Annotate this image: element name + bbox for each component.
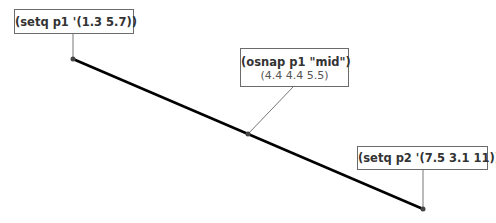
- point-p1: [71, 57, 76, 62]
- leader-mid: [248, 87, 293, 134]
- point-p2: [421, 207, 426, 212]
- label-p2: (setq p2 '(7.5 3.1 11)): [357, 146, 488, 170]
- label-mid: (osnap p1 "mid") (4.4 4.4 5.5): [240, 48, 349, 87]
- label-p2-text: (setq p2 '(7.5 3.1 11)): [358, 151, 487, 165]
- point-mid: [246, 132, 251, 137]
- label-p1: (setq p1 '(1.3 5.7)): [14, 9, 134, 34]
- label-p1-text: (setq p1 '(1.3 5.7)): [15, 15, 133, 29]
- label-mid-value: (4.4 4.4 5.5): [241, 69, 348, 82]
- label-mid-text: (osnap p1 "mid"): [241, 55, 348, 69]
